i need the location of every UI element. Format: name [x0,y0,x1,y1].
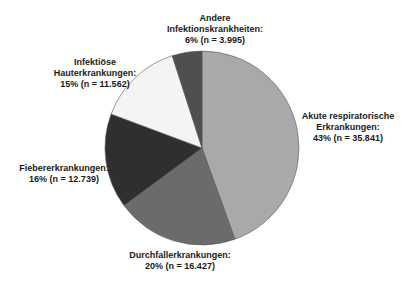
label-line: Akute respiratorische [298,111,398,122]
label-line: Infektionskrankheiten: [155,24,275,35]
label-line: Durchfallerkrankungen: [125,250,235,261]
label-akute-respiratorische: Akute respiratorische Erkrankungen: 43% … [298,111,398,144]
label-durchfall: Durchfallerkrankungen: 20% (n = 16.427) [125,250,235,272]
label-infektioese-haut: Infektiöse Hauterkrankungen: 15% (n = 11… [50,57,140,90]
label-line: 16% (n = 12.739) [18,174,110,185]
label-line: Infektiöse [50,57,140,68]
label-andere: Andere Infektionskrankheiten: 6% (n = 3.… [155,13,275,46]
label-line: 20% (n = 16.427) [125,261,235,272]
label-line: 43% (n = 35.841) [298,133,398,144]
label-line: Fiebererkrankungen: [18,163,110,174]
label-line: 6% (n = 3.995) [155,35,275,46]
label-fieber: Fiebererkrankungen: 16% (n = 12.739) [18,163,110,185]
label-line: 15% (n = 11.562) [50,79,140,90]
label-line: Hauterkrankungen: [50,68,140,79]
label-line: Erkrankungen: [298,122,398,133]
label-line: Andere [155,13,275,24]
